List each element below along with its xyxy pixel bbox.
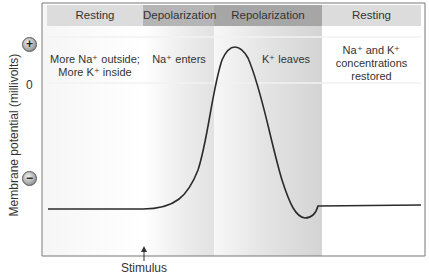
band-depolarization	[143, 5, 214, 256]
phase-header-resting-1: Resting	[47, 5, 143, 26]
phase-description-depolarization: Na⁺ enters	[143, 53, 215, 66]
diagram-canvas	[0, 0, 429, 279]
phase-description-resting-2: Na⁺ and K⁺ concentrations restored	[322, 44, 421, 83]
stimulus-label: Stimulus	[114, 262, 174, 275]
band-resting-2	[322, 5, 423, 256]
y-axis-label: Membrane potential (millivolts)	[7, 35, 21, 235]
zero-marker: 0	[26, 78, 33, 92]
plus-icon: +	[22, 37, 37, 52]
phase-description-repolarization: K⁺ leaves	[250, 53, 322, 66]
phase-description-resting-1: More Na⁺ outside; More K⁺ inside	[47, 53, 143, 79]
phase-header-depolarization: Depolarization	[143, 5, 214, 26]
minus-icon: −	[22, 171, 37, 186]
phase-header-resting-2: Resting	[322, 5, 421, 26]
band-resting-1	[43, 5, 143, 256]
phase-header-repolarization: Repolarization	[214, 5, 322, 26]
